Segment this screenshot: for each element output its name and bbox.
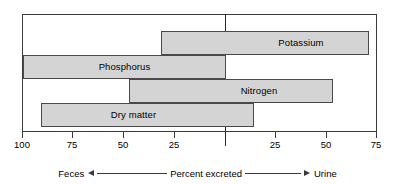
caption-urine-label: Urine bbox=[314, 168, 337, 179]
axis-tick-label-urine-25: 25 bbox=[270, 139, 281, 150]
caption-feces-label: Feces bbox=[58, 168, 84, 179]
bar-label-phosphorus: Phosphorus bbox=[99, 62, 151, 72]
bar-label-nitrogen: Nitrogen bbox=[241, 86, 278, 96]
bar-label-dry-matter: Dry matter bbox=[111, 110, 156, 120]
axis-tick bbox=[123, 132, 124, 138]
axis-tick bbox=[22, 132, 23, 138]
diverging-bar-chart: Potassium Phosphorus Nitrogen Dry matter… bbox=[0, 0, 395, 184]
axis-tick bbox=[326, 132, 327, 138]
bar-nitrogen: Nitrogen bbox=[129, 79, 333, 103]
axis-tick-label-feces-25: 25 bbox=[169, 139, 180, 150]
axis-tick-label-feces-50: 50 bbox=[118, 139, 129, 150]
bar-label-potassium: Potassium bbox=[278, 38, 323, 48]
arrow-left-icon bbox=[88, 170, 94, 176]
axis-tick bbox=[174, 132, 175, 138]
caption-rule-left bbox=[97, 173, 167, 174]
arrow-right-icon bbox=[304, 170, 310, 176]
bar-dry-matter: Dry matter bbox=[41, 103, 254, 127]
axis-tick bbox=[275, 132, 276, 138]
caption-center-label: Percent excreted bbox=[170, 168, 242, 179]
axis-tick-label-urine-50: 50 bbox=[321, 139, 332, 150]
axis-caption: Feces Percent excreted Urine bbox=[0, 164, 395, 182]
axis-tick-label-feces-100: 100 bbox=[14, 139, 30, 150]
axis-tick bbox=[376, 132, 377, 138]
axis-tick-label-urine-75: 75 bbox=[371, 139, 382, 150]
bar-potassium: Potassium bbox=[161, 31, 369, 55]
bar-phosphorus: Phosphorus bbox=[23, 55, 226, 79]
axis-tick bbox=[72, 132, 73, 138]
caption-rule-right bbox=[245, 173, 301, 174]
axis-tick-label-feces-75: 75 bbox=[67, 139, 78, 150]
